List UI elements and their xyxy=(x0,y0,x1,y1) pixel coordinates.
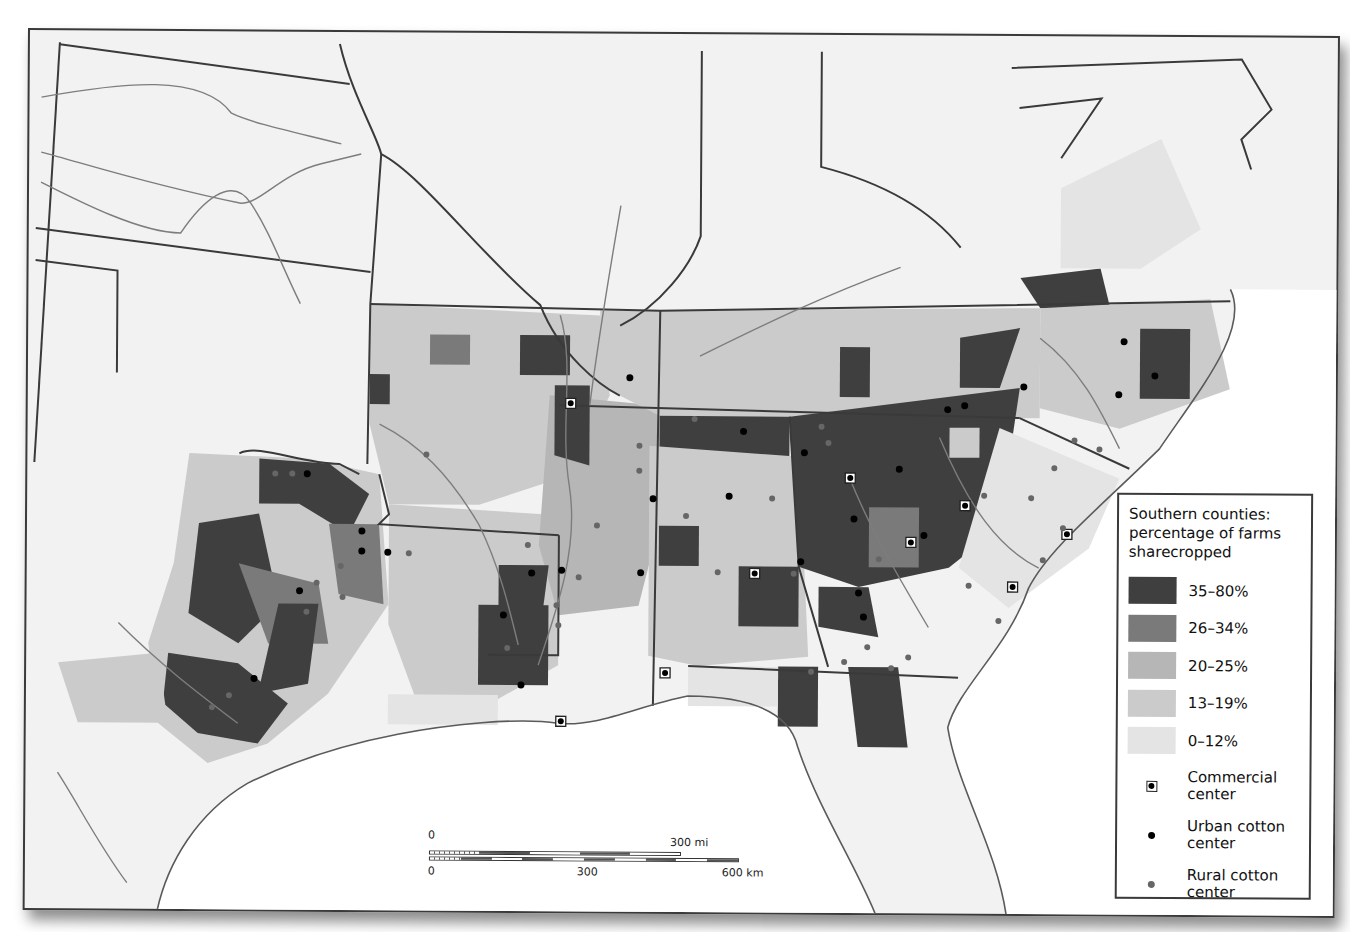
legend-marker-label: Commercial center xyxy=(1187,769,1297,804)
legend-commercial-center: Commercial center xyxy=(1127,763,1299,809)
commercial-center-marker xyxy=(566,398,576,408)
rural-cotton-center-icon xyxy=(1147,880,1154,887)
scale-km-mid: 300 xyxy=(577,865,598,878)
legend-swatch xyxy=(1128,614,1176,641)
commercial-center-marker xyxy=(906,537,916,547)
scale-mi-end: 300 mi xyxy=(670,836,708,849)
commercial-center-marker xyxy=(845,473,855,483)
legend-marker-label: Urban cotton center xyxy=(1187,818,1297,853)
map-page: Southern counties: percentage of farms s… xyxy=(23,28,1340,918)
legend-swatch xyxy=(1129,577,1177,604)
scale-bar-miles xyxy=(429,850,681,856)
legend-class-26-34: 26–34% xyxy=(1128,609,1300,648)
legend-title: Southern counties: percentage of farms s… xyxy=(1129,505,1301,563)
commercial-center-marker xyxy=(660,668,670,678)
legend-class-13-19: 13–19% xyxy=(1128,684,1300,723)
legend-label: 0–12% xyxy=(1188,732,1238,750)
commercial-center-marker xyxy=(750,568,760,578)
scale-bar-km xyxy=(429,856,739,862)
scale-km-start: 0 xyxy=(428,864,435,877)
scale-mi-start: 0 xyxy=(428,828,435,841)
scale-km-end: 600 km xyxy=(722,866,764,879)
map-frame: Southern counties: percentage of farms s… xyxy=(23,28,1340,918)
legend-label: 13–19% xyxy=(1188,694,1248,712)
commercial-center-icon xyxy=(1146,780,1157,791)
legend-class-35-80: 35–80% xyxy=(1128,572,1300,611)
commercial-center-marker xyxy=(1008,582,1018,592)
legend-swatch xyxy=(1128,689,1176,716)
urban-cotton-center-icon xyxy=(1148,831,1155,838)
legend-rural-cotton-center: Rural cotton center xyxy=(1127,861,1299,907)
legend-label: 20–25% xyxy=(1188,657,1248,675)
map-legend: Southern counties: percentage of farms s… xyxy=(1115,493,1313,900)
legend-marker-label: Rural cotton center xyxy=(1187,867,1297,902)
legend-swatch xyxy=(1128,652,1176,679)
legend-class-20-25: 20–25% xyxy=(1128,647,1300,686)
legend-label: 35–80% xyxy=(1189,582,1249,600)
commercial-center-marker xyxy=(960,501,970,511)
scale-bar: 0 300 mi 0 300 600 km xyxy=(425,828,785,890)
legend-class-0-12: 0–12% xyxy=(1128,722,1300,761)
legend-urban-cotton-center: Urban cotton center xyxy=(1127,812,1299,858)
legend-swatch xyxy=(1128,727,1176,754)
commercial-center-marker xyxy=(556,716,566,726)
legend-label: 26–34% xyxy=(1188,619,1248,637)
